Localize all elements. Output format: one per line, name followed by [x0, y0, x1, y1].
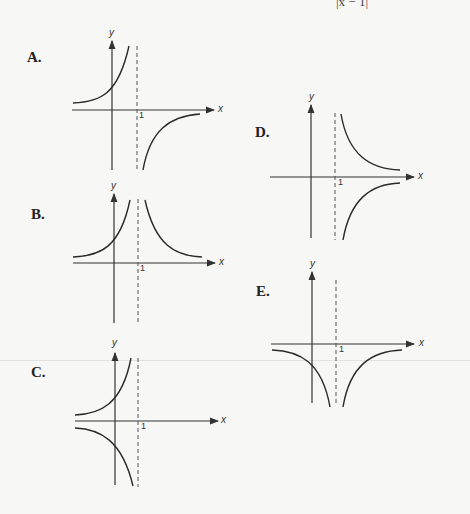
graph-b [73, 194, 215, 325]
graph-c-tick-1: 1 [141, 421, 146, 431]
graph-d-y-label: y [309, 91, 314, 102]
graph-a [72, 41, 214, 170]
graph-a-x-label: x [218, 103, 223, 114]
graph-e-tick-1: 1 [339, 344, 344, 354]
curve-left [73, 46, 129, 103]
graph-b-tick-1: 1 [140, 263, 145, 273]
graph-c [75, 353, 218, 487]
graph-a-y-label: y [109, 27, 114, 38]
graph-d-tick-1: 1 [338, 177, 343, 187]
graph-d-x-label: x [418, 170, 423, 181]
graph-e-x-label: x [419, 337, 424, 348]
graph-e-y-label: y [310, 258, 315, 269]
graph-c-x-label: x [221, 414, 226, 425]
graph-b-x-label: x [219, 256, 224, 267]
graph-a-tick-1: 1 [139, 110, 144, 120]
graph-c-y-label: y [112, 337, 117, 348]
graph-d [270, 105, 414, 240]
graph-b-y-label: y [111, 180, 116, 191]
curve-right [143, 114, 200, 170]
graph-e [271, 272, 414, 407]
